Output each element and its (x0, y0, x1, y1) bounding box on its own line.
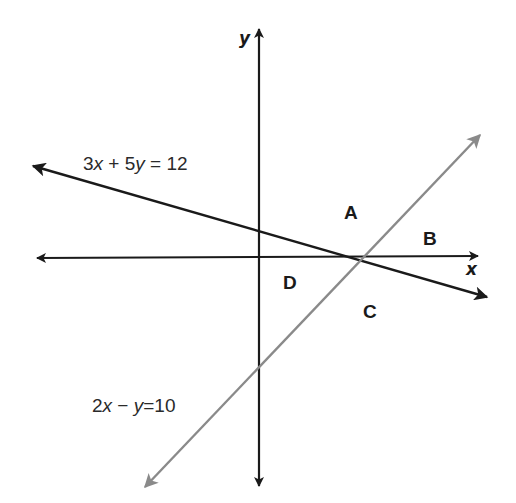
operator: − (117, 395, 128, 416)
line-2x-minus-y-eq-10 (145, 135, 480, 487)
coef: 3 (83, 153, 94, 174)
var: y (135, 153, 145, 174)
equals: = (150, 153, 161, 174)
x-axis-label: x (466, 259, 477, 279)
var: y (134, 395, 144, 416)
region-label-d: D (283, 272, 297, 294)
equals: = (143, 395, 154, 416)
coef: 2 (92, 395, 103, 416)
coef: 5 (125, 153, 136, 174)
region-label-c: C (363, 301, 377, 323)
region-label-a: A (344, 202, 358, 224)
y-axis-label: y (239, 28, 250, 48)
var: x (103, 395, 113, 416)
coordinate-diagram: y x 3x + 5y = 12 2x − y=10 A B C D (0, 0, 516, 503)
equation-label-line-1: 3x + 5y = 12 (83, 153, 188, 175)
region-label-b: B (423, 228, 437, 250)
equation-label-line-2: 2x − y=10 (92, 395, 176, 417)
operator: + (108, 153, 119, 174)
var: x (94, 153, 104, 174)
x-axis (37, 256, 478, 258)
constant: 10 (154, 395, 175, 416)
diagram-canvas (0, 0, 516, 503)
constant: 12 (167, 153, 188, 174)
